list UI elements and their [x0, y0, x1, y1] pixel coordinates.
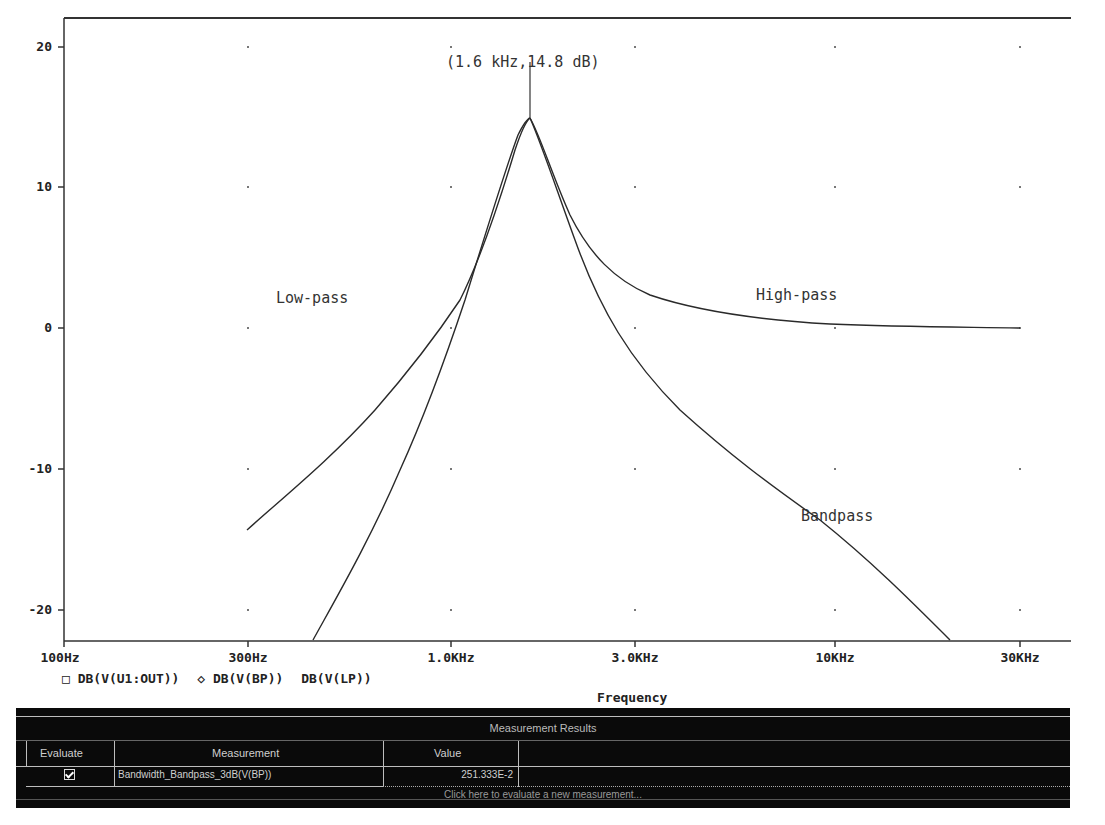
- divider: [16, 716, 1070, 717]
- x-tick-label: 100Hz: [40, 650, 79, 665]
- y-tick-label: 20: [2, 39, 52, 54]
- y-tick-label: -20: [2, 602, 52, 617]
- legend-item-lp[interactable]: DB(V(LP)): [301, 671, 371, 686]
- grid-dots: [247, 46, 1021, 611]
- divider: [518, 741, 519, 787]
- x-tick-label: 300Hz: [228, 650, 267, 665]
- bandpass-curve-left: [313, 118, 530, 640]
- measurement-results-panel: Measurement Results Evaluate Measurement…: [16, 708, 1070, 808]
- divider: [16, 766, 1070, 767]
- bandpass-label: Bandpass: [801, 507, 873, 525]
- divider: [383, 741, 384, 787]
- divider: [114, 741, 115, 787]
- plot-area: [0, 0, 1105, 700]
- x-tick-marks: [64, 641, 1020, 647]
- legend: □ DB(V(U1:OUT)) ◇ DB(V(BP)) DB(V(LP)): [62, 671, 382, 686]
- x-tick-label: 10KHz: [815, 650, 854, 665]
- measurement-name[interactable]: Bandwidth_Bandpass_3dB(V(BP)): [118, 769, 271, 780]
- x-axis-label: Frequency: [597, 690, 667, 705]
- divider: [26, 786, 383, 787]
- lowpass-label: Low-pass: [276, 289, 348, 307]
- column-header-measurement[interactable]: Measurement: [212, 747, 279, 759]
- column-header-evaluate[interactable]: Evaluate: [40, 747, 83, 759]
- y-tick-label: 0: [2, 320, 52, 335]
- legend-item-u1-out[interactable]: □ DB(V(U1:OUT)): [62, 671, 179, 686]
- column-header-value[interactable]: Value: [434, 747, 461, 759]
- x-tick-label: 3.0KHz: [612, 650, 659, 665]
- divider: [16, 740, 1070, 741]
- measurement-value: 251.333E-2: [386, 769, 513, 780]
- divider: [26, 741, 27, 766]
- y-tick-label: 10: [2, 179, 52, 194]
- divider: [383, 786, 1070, 788]
- lowpass-curve: [247, 118, 530, 530]
- bandpass-curve-right: [530, 118, 950, 640]
- x-tick-label: 1.0KHz: [428, 650, 475, 665]
- measurement-results-title: Measurement Results: [16, 722, 1070, 734]
- divider: [16, 799, 1070, 800]
- y-tick-label: -10: [2, 461, 52, 476]
- y-tick-marks: [58, 47, 64, 610]
- highpass-label: High-pass: [756, 286, 837, 304]
- evaluate-checkbox[interactable]: [64, 769, 75, 780]
- legend-item-bp[interactable]: ◇ DB(V(BP)): [197, 671, 283, 686]
- x-tick-label: 30KHz: [1000, 650, 1039, 665]
- peak-annotation: (1.6 kHz,14.8 dB): [446, 53, 600, 71]
